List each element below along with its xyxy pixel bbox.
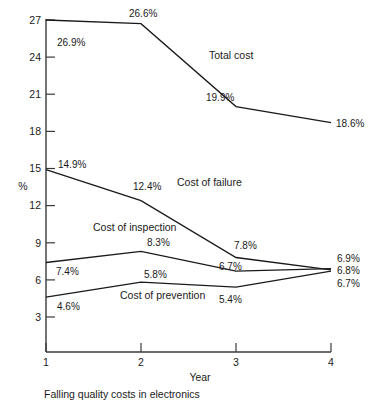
y-tick-label-9: 9: [35, 237, 41, 249]
point-label-inspection-y1: 7.4%: [56, 266, 79, 277]
y-tick-label-27: 27: [29, 14, 41, 26]
point-label-failure-y3: 7.8%: [234, 240, 257, 251]
point-label-failure-y4: 6.8%: [337, 265, 360, 276]
point-label-prevention-y3: 5.4%: [219, 294, 242, 305]
point-label-failure-y1: 14.9%: [58, 159, 86, 170]
point-label-total-cost-y1: 26.9%: [57, 37, 85, 48]
point-label-total-cost-y4: 18.6%: [336, 118, 364, 129]
series-line-total-cost: [46, 20, 331, 123]
x-tick-marks: [46, 343, 331, 352]
x-tick-label-2: 2: [138, 356, 144, 368]
x-tick-label-3: 3: [233, 356, 239, 368]
series-label-total-cost: Total cost: [209, 49, 253, 61]
y-tick-label-6: 6: [35, 274, 41, 286]
line-chart-canvas: 27 24 21 18 15 12 9 6 3 % 1 2 3 4 Year: [0, 0, 379, 414]
y-tick-label-18: 18: [29, 125, 41, 137]
x-tick-labels: 1 2 3 4: [43, 356, 334, 368]
point-labels-cost-of-prevention: 4.6% 5.8% 5.4% 6.7%: [57, 269, 360, 312]
y-tick-marks: [46, 20, 55, 317]
point-labels-cost-of-inspection: 7.4% 8.3% 6.7% 6.9%: [56, 237, 360, 277]
point-labels-total-cost: 26.9% 26.6% 19.9% 18.6%: [57, 8, 364, 129]
y-axis-title: %: [18, 180, 27, 192]
series-label-cost-of-inspection: Cost of inspection: [93, 221, 177, 233]
point-label-prevention-y1: 4.6%: [57, 301, 80, 312]
y-tick-label-21: 21: [29, 88, 41, 100]
point-label-total-cost-y2: 26.6%: [129, 8, 157, 19]
series-line-cost-of-inspection: [46, 251, 331, 271]
point-label-inspection-y3: 6.7%: [219, 261, 242, 272]
chart-caption: Falling quality costs in electronics: [44, 388, 200, 400]
series-label-cost-of-failure: Cost of failure: [177, 176, 242, 188]
y-tick-label-15: 15: [29, 162, 41, 174]
chart-figure: 27 24 21 18 15 12 9 6 3 % 1 2 3 4 Year: [0, 0, 379, 414]
x-tick-label-1: 1: [43, 356, 49, 368]
y-tick-label-3: 3: [35, 311, 41, 323]
x-tick-label-4: 4: [328, 356, 334, 368]
series-label-cost-of-prevention: Cost of prevention: [120, 289, 205, 301]
point-label-prevention-y4: 6.7%: [337, 278, 360, 289]
point-label-total-cost-y3: 19.9%: [206, 92, 234, 103]
point-label-inspection-y2: 8.3%: [147, 237, 170, 248]
y-tick-labels: 27 24 21 18 15 12 9 6 3: [29, 14, 41, 323]
point-label-inspection-y4: 6.9%: [337, 253, 360, 264]
point-label-failure-y2: 12.4%: [133, 181, 161, 192]
y-tick-label-12: 12: [29, 199, 41, 211]
x-axis-title: Year: [189, 371, 211, 383]
y-tick-label-24: 24: [29, 51, 41, 63]
point-label-prevention-y2: 5.8%: [144, 269, 167, 280]
data-series-group: [46, 20, 331, 297]
